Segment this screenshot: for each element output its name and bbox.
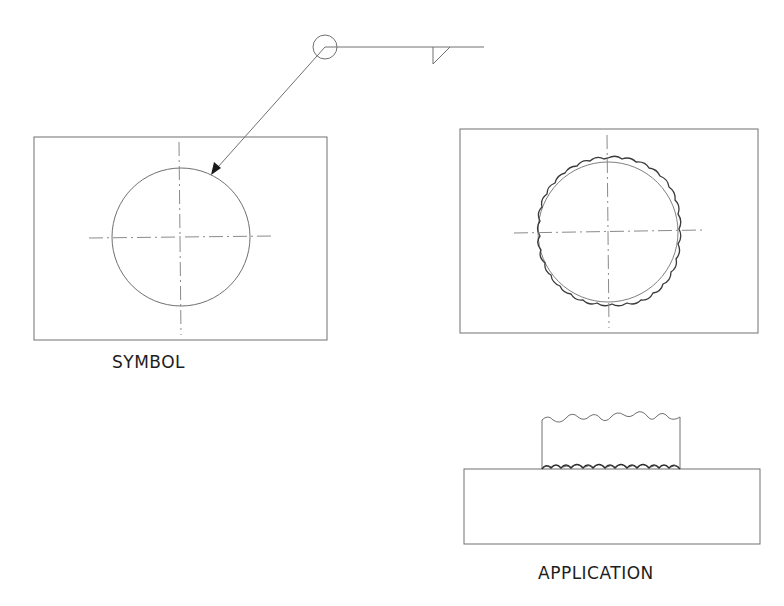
application-side-view	[464, 412, 760, 544]
weld-symbol-diagram	[0, 0, 784, 606]
arrowhead-icon	[211, 162, 221, 175]
application-caption: APPLICATION	[538, 563, 654, 583]
application-top-view	[460, 129, 758, 333]
symbol-horizontal-centerline	[89, 236, 273, 238]
symbol-caption: SYMBOL	[112, 352, 185, 372]
arrow-leader-line	[218, 47, 325, 167]
cylinder-break-line	[542, 412, 680, 422]
base-plate	[464, 469, 760, 544]
fillet-weld-symbol-icon	[433, 47, 450, 64]
application-vertical-centerline	[607, 135, 609, 328]
symbol-hole-circle	[112, 168, 250, 306]
weld-symbol	[211, 35, 484, 175]
symbol-view	[34, 137, 327, 340]
